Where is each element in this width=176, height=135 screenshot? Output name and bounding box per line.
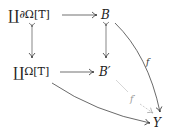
arrow-f (115, 23, 160, 112)
label-f-prime: f′ (130, 95, 135, 104)
coprod-symbol: ∐ (13, 64, 24, 80)
arrow-left-mono (29, 23, 35, 58)
coprod-symbol: ∐ (8, 7, 19, 23)
node-coprod-omega: ∐Ω[T] (13, 65, 49, 79)
arrow-right-mono (103, 22, 109, 58)
label-f: f (146, 58, 149, 67)
node-B: B (101, 9, 110, 21)
node-Y: Y (153, 117, 161, 129)
node-coprod-boundary: ∐∂Ω[T] (8, 8, 50, 22)
node-B-prime: B′ (99, 66, 111, 78)
node-label: Ω[T] (24, 65, 49, 78)
node-label: ∂Ω[T] (19, 8, 50, 21)
